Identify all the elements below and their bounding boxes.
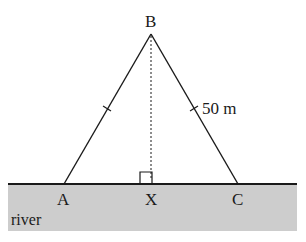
label-c: C xyxy=(232,190,243,209)
label-river: river xyxy=(11,211,42,228)
label-a: A xyxy=(57,190,70,209)
triangle-river-diagram: B 50 m A X C river xyxy=(0,0,306,242)
label-b: B xyxy=(145,12,156,31)
right-angle-marker xyxy=(140,172,152,184)
label-bc-length: 50 m xyxy=(202,99,236,118)
label-x: X xyxy=(145,190,157,209)
